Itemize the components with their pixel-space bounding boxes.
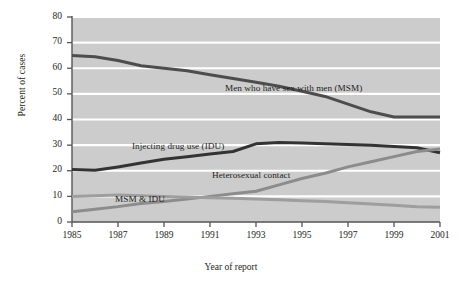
- y-tick-label: 80: [34, 11, 62, 21]
- x-tick-label: 1999: [374, 230, 414, 240]
- x-tick-label: 1989: [144, 230, 184, 240]
- y-tick-label: 20: [34, 164, 62, 174]
- y-tick-label: 50: [34, 87, 62, 97]
- x-tick-label: 2001: [420, 230, 460, 240]
- x-tick-label: 1997: [328, 230, 368, 240]
- x-tick-label: 1995: [282, 230, 322, 240]
- y-tick-label: 40: [34, 113, 62, 123]
- x-tick-label: 1991: [190, 230, 230, 240]
- y-tick-label: 70: [34, 36, 62, 46]
- y-tick-label: 0: [34, 216, 62, 226]
- x-tick-label: 1993: [236, 230, 276, 240]
- x-tick-label: 1985: [52, 230, 92, 240]
- series-annotation-3: Heterosexual contact: [212, 170, 290, 180]
- y-tick-label: 10: [34, 190, 62, 200]
- series-annotation-4: MSM & IDU: [115, 194, 165, 204]
- y-tick-label: 60: [34, 62, 62, 72]
- line-chart: [0, 0, 462, 290]
- x-tick-label: 1987: [98, 230, 138, 240]
- series-annotation-2: Injecting drug use (IDU): [132, 141, 224, 151]
- series-annotation-1: Men who have sex with men (MSM): [225, 83, 362, 93]
- y-tick-label: 30: [34, 139, 62, 149]
- figure-container: Percent of cases Year of report 01020304…: [0, 0, 462, 290]
